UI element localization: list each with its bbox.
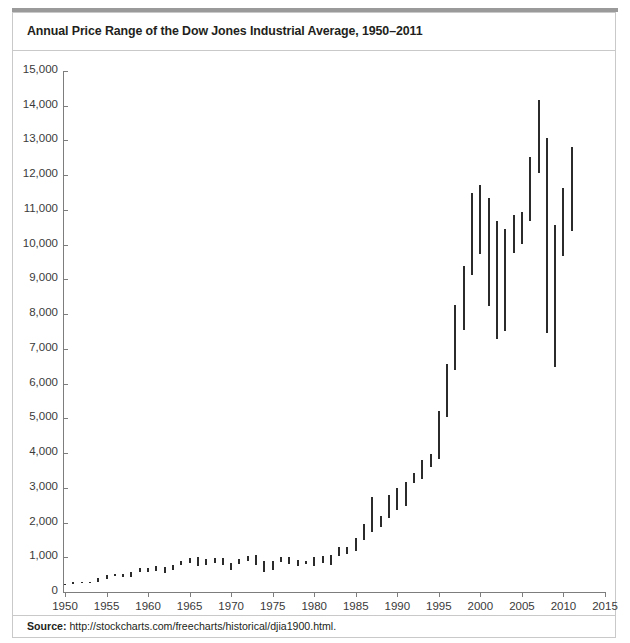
range-bar [363, 524, 365, 540]
range-bar [479, 185, 481, 254]
y-tick [63, 140, 68, 141]
x-tick [190, 592, 191, 597]
range-bar [538, 100, 540, 173]
y-tick [63, 210, 68, 211]
figure-page: Annual Price Range of the Dow Jones Indu… [0, 0, 630, 643]
x-tick-label: 1990 [375, 600, 419, 612]
range-bar [313, 557, 315, 565]
x-tick [480, 592, 481, 597]
range-bar [205, 559, 207, 564]
x-tick [314, 592, 315, 597]
x-tick [65, 592, 66, 597]
x-tick-label: 2015 [583, 600, 627, 612]
range-bar [114, 574, 116, 576]
y-tick [63, 488, 68, 489]
range-bar [521, 212, 523, 244]
y-tick [63, 279, 68, 280]
y-tick-label: 7,000 [13, 341, 58, 353]
range-bar [106, 575, 108, 578]
range-bar [230, 563, 232, 570]
y-tick [63, 349, 68, 350]
chart-title: Annual Price Range of the Dow Jones Indu… [27, 24, 422, 38]
range-bar [471, 193, 473, 276]
y-tick [63, 71, 68, 72]
range-bar [438, 411, 440, 459]
y-tick-label: 13,000 [13, 132, 58, 144]
range-bar [554, 225, 556, 368]
y-tick-label: 4,000 [13, 445, 58, 457]
range-bar [97, 578, 99, 582]
title-bar: Annual Price Range of the Dow Jones Indu… [13, 13, 615, 51]
y-axis-line [63, 71, 64, 592]
range-bar [89, 582, 91, 583]
range-bar [155, 566, 157, 570]
range-bar [330, 555, 332, 565]
y-tick [63, 384, 68, 385]
source-label: Source: [27, 620, 66, 632]
y-tick-label: 11,000 [13, 202, 58, 214]
range-bar [371, 497, 373, 531]
x-tick [107, 592, 108, 597]
x-tick [273, 592, 274, 597]
range-bar [288, 557, 290, 564]
y-tick-label: 2,000 [13, 515, 58, 527]
y-tick [63, 557, 68, 558]
y-tick [63, 418, 68, 419]
range-bar [64, 584, 66, 585]
y-tick-label: 12,000 [13, 167, 58, 179]
x-tick [397, 592, 398, 597]
y-tick-label: 5,000 [13, 410, 58, 422]
range-bar [380, 516, 382, 527]
x-tick-label: 1980 [292, 600, 336, 612]
figure-box: Annual Price Range of the Dow Jones Indu… [12, 12, 616, 616]
x-tick-label: 1955 [85, 600, 129, 612]
y-tick [63, 175, 68, 176]
y-tick-label: 0 [13, 584, 58, 596]
range-bar [139, 568, 141, 572]
y-tick-label: 1,000 [13, 549, 58, 561]
x-tick [563, 592, 564, 597]
y-tick [63, 106, 68, 107]
y-tick [63, 523, 68, 524]
x-tick-label: 1950 [43, 600, 87, 612]
x-tick-label: 1970 [209, 600, 253, 612]
x-tick-label: 1995 [417, 600, 461, 612]
range-bar [164, 567, 166, 574]
range-bar [214, 558, 216, 564]
y-tick-label: 14,000 [13, 98, 58, 110]
x-tick [522, 592, 523, 597]
source-note: Source: http://stockcharts.com/freechart… [27, 620, 336, 632]
range-bar [322, 556, 324, 563]
range-bar [238, 559, 240, 564]
range-bar [430, 454, 432, 467]
range-bar [263, 561, 265, 572]
x-tick-label: 1975 [251, 600, 295, 612]
range-bar [496, 221, 498, 339]
range-bar [529, 157, 531, 221]
range-bar [130, 572, 132, 577]
y-tick-label: 8,000 [13, 306, 58, 318]
y-tick [63, 245, 68, 246]
range-bar [189, 558, 191, 562]
range-bar [396, 488, 398, 510]
range-bar [297, 560, 299, 566]
y-tick [63, 453, 68, 454]
range-bar [247, 556, 249, 561]
range-bar [413, 473, 415, 483]
source-bar: Source: http://stockcharts.com/freechart… [12, 616, 616, 638]
x-tick-label: 2000 [458, 600, 502, 612]
x-tick [231, 592, 232, 597]
plot-area: 01,0002,0003,0004,0005,0006,0007,0008,00… [13, 51, 617, 616]
range-bar [446, 364, 448, 417]
x-tick-label: 2005 [500, 600, 544, 612]
x-tick-label: 1985 [334, 600, 378, 612]
range-bar [305, 561, 307, 565]
range-bar [280, 557, 282, 562]
x-tick [439, 592, 440, 597]
x-tick [356, 592, 357, 597]
range-bar [81, 582, 83, 583]
source-url: http://stockcharts.com/freecharts/histor… [69, 620, 336, 632]
x-axis-line [63, 592, 606, 593]
range-bar [405, 482, 407, 506]
x-tick-label: 1960 [126, 600, 170, 612]
